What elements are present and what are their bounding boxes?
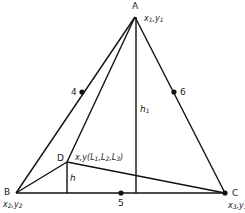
point-d-label: D: [57, 154, 64, 163]
line-cd: [67, 162, 225, 193]
vertex-c-label: C: [232, 189, 238, 198]
point-d-coords: x,y(L1,L2,L3): [75, 154, 123, 162]
line-bd: [16, 162, 67, 193]
vertex-a-coords: x1,y1: [144, 15, 164, 23]
line-ad: [67, 17, 135, 162]
vertex-a-label: A: [132, 2, 138, 11]
node-5-label: 5: [118, 199, 124, 208]
height-h-label: h: [70, 174, 76, 183]
node-4: [79, 89, 84, 94]
vertex-b-coords: x2,y2: [3, 201, 23, 209]
edge-ab: [16, 17, 135, 193]
height-h1-label: h1: [140, 105, 150, 114]
triangle-diagram: [0, 0, 245, 213]
node-4-label: 4: [71, 88, 77, 97]
node-6: [171, 89, 176, 94]
vertex-b-label: B: [4, 188, 10, 197]
node-c: [222, 190, 227, 195]
vertex-c-coords: x3,y3: [228, 202, 245, 210]
node-5: [118, 190, 123, 195]
node-6-label: 6: [180, 88, 186, 97]
